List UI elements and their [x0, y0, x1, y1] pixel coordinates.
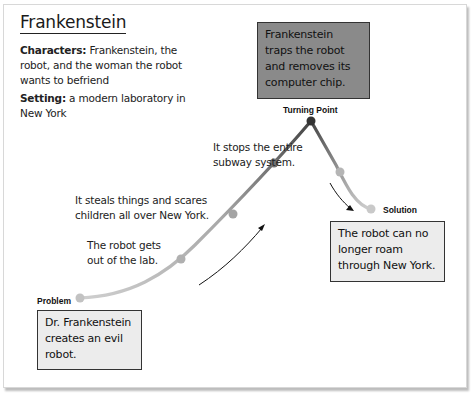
solution-dot [367, 205, 376, 214]
problem-box: Dr. Frankenstein creates an evil robot. [37, 310, 142, 370]
turning-point-dot [307, 117, 316, 126]
solution-box: The robot can no longer roam through New… [330, 221, 445, 282]
rising-event-3: It stops the entire subway system. [213, 140, 338, 170]
turning-point-label: Turning Point [283, 105, 338, 115]
problem-label: Problem [37, 296, 71, 306]
problem-dot [76, 294, 85, 303]
turning-point-box: Frankenstein traps the robot and removes… [257, 22, 370, 99]
rising-event-2: It steals things and scares children all… [75, 193, 235, 223]
solution-label: Solution [383, 205, 417, 215]
event-dot-1 [177, 255, 186, 264]
rising-event-1: The robot gets out of the lab. [87, 238, 177, 268]
